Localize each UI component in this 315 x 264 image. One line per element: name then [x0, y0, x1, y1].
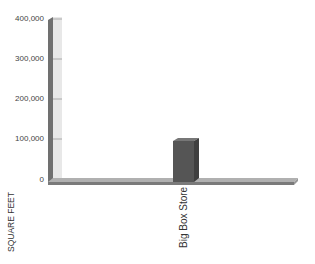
y-tick-400000: 400,000 — [0, 14, 44, 23]
y-tick-100000: 100,000 — [0, 134, 44, 143]
y-axis-label: SQUARE FEET — [6, 192, 16, 252]
bar-big-box-store — [173, 141, 194, 182]
bar-side — [194, 138, 199, 182]
y-tick-200000: 200,000 — [0, 94, 44, 103]
bar-chart: 400,000 300,000 200,000 100,000 0 SQUARE… — [0, 0, 315, 264]
x-category-label: Big Box Store — [178, 187, 189, 248]
y-tick-0: 0 — [0, 175, 44, 184]
y-axis-wall-side — [48, 17, 53, 184]
floor-front — [48, 182, 294, 185]
chart-canvas — [0, 0, 315, 264]
y-axis-wall-face — [53, 17, 62, 180]
y-tick-300000: 300,000 — [0, 54, 44, 63]
